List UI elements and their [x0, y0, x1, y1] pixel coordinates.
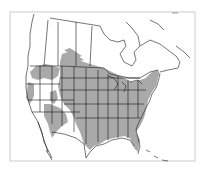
range-map [0, 0, 204, 171]
map-svg [0, 0, 204, 171]
